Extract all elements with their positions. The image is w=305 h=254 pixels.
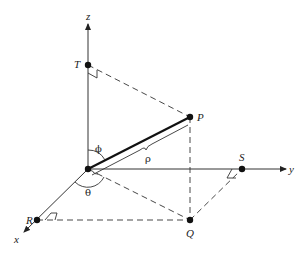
point-S: [239, 166, 245, 172]
phi-label: ϕ: [95, 143, 102, 154]
spherical-coordinates-diagram: z y x T P S Q R ϕ θ ρ: [0, 0, 305, 254]
rho-segment: [88, 117, 190, 169]
label-R: R: [25, 214, 33, 226]
theta-label: θ: [85, 187, 91, 198]
label-T: T: [74, 58, 81, 70]
point-P: [187, 114, 193, 120]
point-Q: [187, 217, 193, 223]
rho-brace: [92, 125, 188, 175]
point-T: [85, 62, 91, 68]
diagram-svg: z y x T P S Q R ϕ θ ρ: [0, 0, 305, 254]
x-axis-label: x: [13, 233, 19, 245]
right-angle-R: [45, 213, 57, 220]
z-axis-label: z: [85, 10, 91, 22]
label-P: P: [196, 111, 204, 123]
point-origin: [85, 166, 91, 172]
label-S: S: [239, 151, 245, 163]
theta-arc: [75, 177, 104, 187]
label-Q: Q: [186, 227, 194, 239]
rho-label: ρ: [145, 153, 151, 164]
point-R: [34, 217, 40, 223]
right-angle-T: [88, 70, 97, 78]
x-axis: [24, 169, 88, 232]
y-axis-label: y: [288, 163, 294, 175]
